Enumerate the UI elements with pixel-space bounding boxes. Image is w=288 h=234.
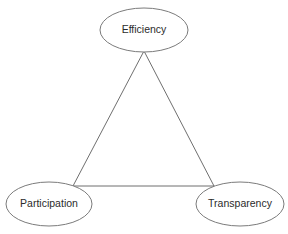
node-participation[interactable]: Participation — [6, 182, 92, 226]
node-efficiency[interactable]: Efficiency — [100, 8, 188, 52]
edge-group — [73, 51, 214, 186]
participation-label: Participation — [20, 197, 78, 209]
edge-efficiency-participation — [73, 51, 144, 186]
efficiency-label: Efficiency — [122, 23, 167, 35]
transparency-label: Transparency — [208, 197, 273, 209]
edge-efficiency-transparency — [144, 51, 214, 186]
node-transparency[interactable]: Transparency — [196, 182, 284, 226]
triangle-relationship-diagram: Efficiency Participation Transparency — [0, 0, 288, 234]
diagram-canvas: Efficiency Participation Transparency — [0, 0, 288, 234]
